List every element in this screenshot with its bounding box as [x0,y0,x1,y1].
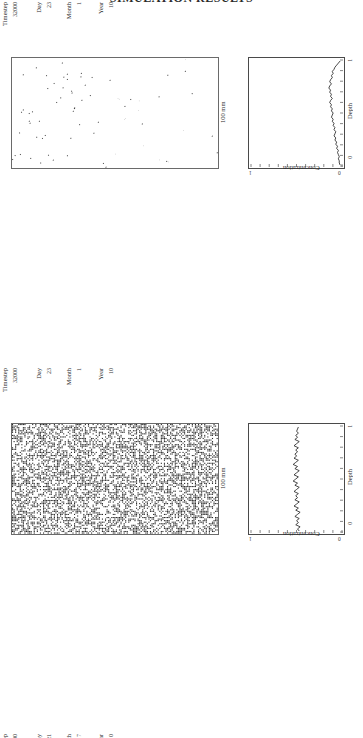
meta-field-day: 23Day [36,2,52,52]
meta-timestep-label: Timestep [2,734,9,738]
meta-month-value: 1 [76,2,82,5]
meta-timestep-label: Timestep [2,2,9,26]
depth-tick-max: 1 [347,59,353,62]
panel-4: 2000Timestep21Day7Month0Year100 mmDepth1… [0,549,363,734]
meta-month-label: Month [66,734,73,738]
meta-year-label: Year [98,734,105,738]
concentration-depth-plot [248,57,345,169]
panel-metadata: 32000Timestep23Day1Month10Year [0,2,140,52]
meta-field-timestep: 32000Timestep [2,2,18,52]
profile-line [249,58,344,168]
meta-year-label: Year [98,2,105,14]
meta-month-label: Month [66,2,73,19]
meta-timestep-value: 2000 [12,734,18,738]
meta-day-label: Day [36,2,43,13]
concentration-tick-min: 0 [338,170,341,176]
panel-2: 32000Timestep23Day1Month10Year100 mmDept… [0,183,363,368]
meta-field-day: 21Day [36,734,52,738]
depth-axis-label: Depth [346,79,353,119]
panel-3: 2000Timestep21Day7Month0Year100 mmDepth1… [0,366,363,551]
meta-field-year: 10Year [98,2,114,52]
depth-tick-min: 0 [347,156,353,159]
meta-year-value: 10 [108,2,114,8]
meta-timestep-value: 32000 [12,2,18,17]
meta-field-timestep: 2000Timestep [2,734,18,738]
particle-plot [11,57,219,169]
meta-month-value: 7 [76,734,82,737]
meta-field-month: 1Month [66,2,82,52]
concentration-tick-max: 1 [249,170,252,176]
meta-field-month: 7Month [66,734,82,738]
panel-metadata: 2000Timestep21Day7Month0Year [0,734,140,738]
panel-1: 32000Timestep23Day1Month10Year100 mmDept… [0,0,363,185]
particle-plot-canvas [12,58,218,168]
meta-year-value: 0 [108,734,114,737]
meta-day-label: Day [36,734,43,738]
meta-day-value: 21 [46,734,52,738]
meta-day-value: 23 [46,2,52,8]
meta-field-year: 0Year [98,734,114,738]
